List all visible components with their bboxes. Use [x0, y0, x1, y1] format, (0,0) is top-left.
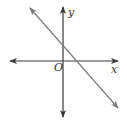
y-axis-label: y: [67, 6, 75, 19]
graph-svg: y O x: [0, 0, 127, 122]
x-axis-label: x: [111, 63, 118, 76]
origin-label: O: [54, 61, 63, 74]
coordinate-plane: y O x: [0, 0, 127, 122]
